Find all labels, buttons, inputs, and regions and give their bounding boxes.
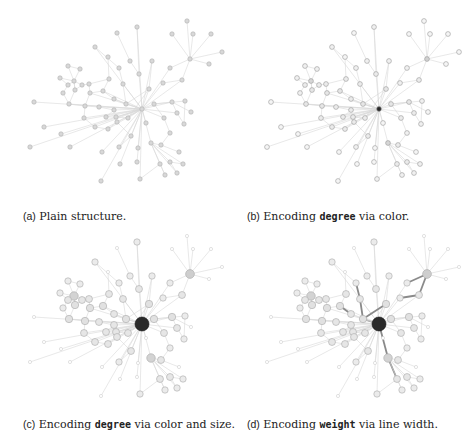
node — [57, 290, 63, 296]
node — [136, 361, 139, 364]
node — [333, 319, 340, 326]
node — [374, 391, 380, 397]
node — [179, 292, 186, 299]
node — [186, 270, 195, 279]
node — [389, 102, 394, 107]
node — [310, 88, 315, 93]
edge — [149, 276, 152, 304]
node — [135, 25, 139, 29]
panel-b — [237, 0, 474, 200]
node — [181, 162, 185, 166]
node — [150, 59, 154, 63]
node — [417, 78, 422, 83]
node — [71, 301, 78, 308]
node — [152, 102, 156, 106]
node — [68, 145, 72, 149]
node — [149, 141, 153, 145]
node — [304, 102, 309, 107]
node — [114, 115, 118, 119]
edge — [117, 248, 130, 276]
node — [372, 160, 377, 165]
node — [161, 330, 168, 337]
node — [100, 365, 103, 368]
node — [302, 297, 309, 304]
node — [167, 374, 174, 381]
node — [182, 122, 186, 126]
node — [373, 146, 378, 151]
node — [147, 87, 151, 91]
node — [42, 340, 45, 343]
node — [88, 91, 92, 95]
node — [82, 116, 86, 120]
node — [337, 150, 342, 155]
node — [407, 32, 412, 37]
node — [168, 131, 172, 135]
node — [60, 305, 66, 311]
node — [121, 82, 125, 86]
node — [78, 67, 82, 71]
node — [343, 291, 350, 298]
node — [400, 173, 405, 178]
node — [149, 273, 155, 279]
node — [419, 122, 424, 127]
node — [67, 102, 71, 106]
edge — [89, 79, 109, 84]
node — [265, 360, 268, 363]
panel-d — [237, 215, 474, 415]
edge — [377, 164, 397, 179]
node — [352, 31, 357, 36]
edge — [172, 102, 191, 112]
node — [65, 315, 72, 322]
node — [163, 173, 167, 177]
node — [42, 125, 46, 129]
node — [399, 387, 405, 393]
node — [185, 19, 189, 23]
caption-text: Encoding — [35, 418, 95, 431]
node — [341, 115, 346, 120]
edge — [332, 47, 379, 109]
edge — [427, 34, 430, 59]
node — [93, 45, 97, 49]
node — [183, 99, 187, 103]
node — [124, 102, 128, 106]
node — [340, 329, 347, 336]
hub-node — [377, 107, 382, 112]
node — [122, 315, 129, 322]
node — [417, 376, 423, 382]
node — [411, 325, 418, 332]
node — [355, 377, 358, 380]
node — [81, 317, 88, 324]
node — [334, 105, 339, 110]
edge — [163, 80, 182, 83]
node — [365, 59, 370, 64]
node — [207, 277, 210, 280]
node — [351, 334, 358, 341]
node — [150, 315, 157, 322]
node — [87, 82, 91, 86]
hub-node — [140, 107, 144, 111]
node — [418, 162, 423, 167]
node — [294, 290, 300, 296]
node — [317, 83, 322, 88]
node — [363, 116, 368, 121]
node — [159, 143, 163, 147]
node — [426, 325, 429, 328]
node — [170, 247, 173, 250]
node — [336, 302, 343, 309]
node — [305, 145, 310, 150]
node — [446, 247, 449, 250]
node — [220, 50, 224, 54]
node — [355, 162, 360, 167]
node — [92, 339, 99, 346]
node — [366, 134, 371, 139]
panel-a — [0, 0, 237, 200]
node — [265, 145, 270, 150]
node — [128, 59, 132, 63]
node — [396, 143, 401, 148]
edge — [126, 304, 149, 319]
node — [59, 132, 63, 136]
node — [191, 247, 194, 250]
node — [365, 348, 372, 355]
node — [372, 375, 375, 378]
node — [59, 347, 62, 350]
